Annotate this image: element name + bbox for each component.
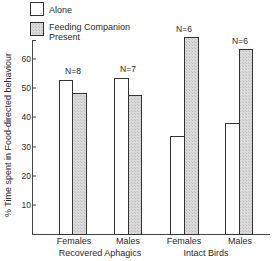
y-tick-labels: 10 20 30 40 50 60 — [22, 54, 32, 210]
x-label-intact-males: Males — [228, 236, 253, 246]
legend-item-alone: Alone — [31, 3, 73, 16]
bar-intact-females-companion — [185, 38, 199, 235]
x-group-labels: Recovered Aphagics Intact Birds — [59, 248, 229, 258]
legend-swatch-companion — [31, 23, 44, 36]
bar-recovered-males-alone — [115, 79, 129, 235]
y-tick-10: 10 — [22, 200, 32, 210]
n-label-intact-males: N=6 — [232, 36, 248, 46]
bar-chart: Alone Feeding Companion Present 10 20 30… — [0, 0, 274, 261]
bars — [60, 38, 253, 235]
legend-label-companion-line2: Present — [49, 32, 81, 42]
x-label-intact-females: Females — [167, 236, 202, 246]
y-tick-60: 60 — [22, 54, 32, 64]
group-label-recovered-aphagics: Recovered Aphagics — [59, 248, 142, 258]
legend-label-companion-line1: Feeding Companion — [49, 22, 130, 32]
bar-recovered-males-companion — [129, 96, 142, 235]
bar-recovered-females-companion — [73, 94, 87, 235]
legend-item-companion: Feeding Companion Present — [31, 22, 131, 42]
y-axis-label: % Time spent in Food-directed behaviour — [3, 53, 13, 217]
x-label-recovered-males: Males — [116, 236, 141, 246]
bar-intact-females-alone — [171, 137, 185, 235]
bar-intact-males-companion — [240, 50, 253, 235]
x-category-labels: Females Males Females Males — [57, 236, 253, 246]
n-label-recovered-females: N=8 — [65, 66, 81, 76]
bar-intact-males-alone — [226, 124, 240, 235]
y-tick-40: 40 — [22, 112, 32, 122]
y-tick-50: 50 — [22, 83, 32, 93]
x-label-recovered-females: Females — [57, 236, 92, 246]
group-label-intact-birds: Intact Birds — [183, 248, 229, 258]
bar-recovered-females-alone — [60, 81, 73, 235]
y-tick-30: 30 — [22, 142, 32, 152]
y-tick-20: 20 — [22, 171, 32, 181]
n-label-recovered-males: N=7 — [120, 64, 136, 74]
n-label-intact-females: N=6 — [176, 24, 192, 34]
legend: Alone Feeding Companion Present — [31, 3, 131, 43]
legend-label-alone: Alone — [49, 5, 72, 15]
y-axis: 10 20 30 40 50 60 % Time spent in Food-d… — [3, 40, 36, 234]
legend-swatch-alone — [31, 3, 44, 16]
